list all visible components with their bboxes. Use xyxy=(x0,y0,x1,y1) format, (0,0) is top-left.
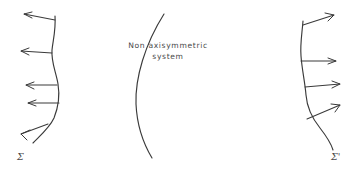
caption-line-2: system xyxy=(108,51,228,62)
right-surface-group xyxy=(301,13,340,150)
right-arrow-1 xyxy=(303,13,334,25)
left-arrow-1 xyxy=(24,12,55,20)
left-surface-group xyxy=(21,12,59,143)
left-surface-curve xyxy=(33,16,59,143)
right-arrow-2 xyxy=(301,58,336,64)
left-surface-label: Σ xyxy=(17,151,24,162)
left-arrow-3 xyxy=(26,82,57,89)
left-arrow-4 xyxy=(28,100,59,106)
middle-surface-curve xyxy=(136,14,164,158)
left-arrow-2 xyxy=(21,48,52,55)
right-arrow-3 xyxy=(305,81,340,88)
caption-line-1: Non axisymmetric xyxy=(108,40,228,51)
figure-drawing-canvas xyxy=(0,0,359,171)
middle-surface-group xyxy=(136,14,164,158)
right-surface-label: Σ' xyxy=(331,151,340,162)
figure-container: Non axisymmetric system Σ Σ' xyxy=(0,0,359,171)
right-arrow-4 xyxy=(307,104,340,119)
